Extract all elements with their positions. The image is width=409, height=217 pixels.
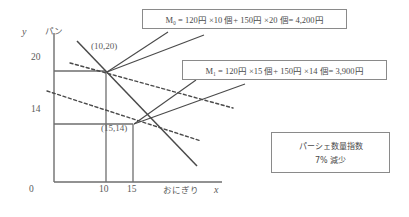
budget-line-m1-dashed xyxy=(47,91,201,141)
result-box: パーシェ数量指数 7% 減少 xyxy=(271,132,390,173)
result-title: パーシェ数量指数 xyxy=(299,140,363,151)
tick-x-15: 15 xyxy=(127,185,137,195)
x-axis-category-label: おにぎり xyxy=(163,186,199,195)
tick-x-10: 10 xyxy=(99,185,109,195)
tick-y-14: 14 xyxy=(31,105,41,115)
y-axis-variable: y xyxy=(22,27,26,37)
leader-m1-b xyxy=(134,84,245,124)
point-label-bundle-0: (10,20) xyxy=(91,42,117,51)
point-label-bundle-1: (15,14) xyxy=(101,124,127,133)
figure-canvas: y パン おにぎり x 0 20 14 10 15 (10,20) (15,14… xyxy=(0,0,409,217)
y-axis-category-label: パン xyxy=(45,27,63,36)
result-value: 7% 減少 xyxy=(315,154,346,165)
tick-y-20: 20 xyxy=(31,53,41,63)
callout-m0-formula: M₀ = 120円 ×10 個+ 150円 ×20 個= 4,200円 xyxy=(165,13,323,25)
leader-m1-a xyxy=(134,80,196,124)
x-axis-variable: x xyxy=(214,185,218,195)
callout-m1-formula: M₁ = 120円 ×15 個+ 150円 ×14 個= 3,900円 xyxy=(205,64,363,76)
callout-m0: M₀ = 120円 ×10 個+ 150円 ×20 個= 4,200円 xyxy=(142,9,347,29)
tick-origin: 0 xyxy=(29,185,34,195)
budget-line-solid xyxy=(77,41,197,166)
callout-m1: M₁ = 120円 ×15 個+ 150円 ×14 個= 3,900円 xyxy=(182,60,387,80)
